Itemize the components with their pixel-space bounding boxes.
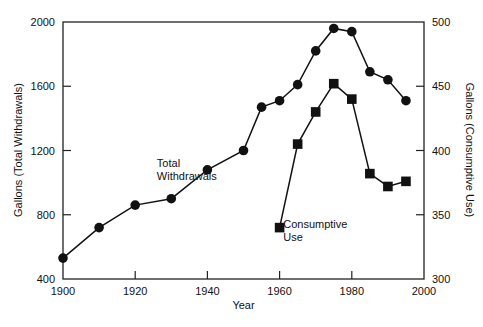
square-marker xyxy=(311,107,321,117)
circle-marker xyxy=(239,146,249,156)
y-axis-label-right: Gallons (Consumptive Use) xyxy=(464,83,476,218)
y-tick-label-left: 1600 xyxy=(31,80,55,92)
y-tick-label-right: 350 xyxy=(432,209,450,221)
data-series xyxy=(58,24,411,263)
y-tick-label-right: 500 xyxy=(432,16,450,28)
series-annotations: TotalWithdrawalsConsumptiveUse xyxy=(157,157,348,243)
x-tick-label: 1900 xyxy=(51,285,75,297)
x-tick-label: 1960 xyxy=(267,285,291,297)
circle-marker xyxy=(365,67,375,77)
circle-marker xyxy=(130,200,140,210)
y-axis-label-left: Gallons (Total Withdrawals) xyxy=(12,83,24,217)
annotation-label: Consumptive xyxy=(283,218,347,230)
circle-marker xyxy=(329,24,339,34)
x-axis-label: Year xyxy=(232,299,255,311)
square-marker xyxy=(365,169,375,179)
axis-labels: Year Gallons (Total Withdrawals) Gallons… xyxy=(12,83,476,311)
circle-marker xyxy=(293,80,303,90)
series-consumptive-use xyxy=(275,79,411,233)
x-tick-label: 1940 xyxy=(195,285,219,297)
circle-marker xyxy=(275,96,285,106)
series-total-withdrawals xyxy=(58,24,411,263)
annotation-label: Withdrawals xyxy=(157,170,217,182)
circle-marker xyxy=(167,194,177,204)
series-line xyxy=(280,84,406,228)
circle-marker xyxy=(401,96,411,106)
x-tick-label: 2000 xyxy=(412,285,436,297)
square-marker xyxy=(383,182,393,192)
square-marker xyxy=(347,94,357,104)
line-chart: 1900192019401960198020004008001200160020… xyxy=(0,0,483,327)
circle-marker xyxy=(311,46,321,56)
circle-marker xyxy=(58,253,68,263)
y-tick-label-left: 800 xyxy=(37,209,55,221)
axis-ticks: 1900192019401960198020004008001200160020… xyxy=(31,16,451,297)
y-tick-label-left: 2000 xyxy=(31,16,55,28)
x-tick-label: 1980 xyxy=(340,285,364,297)
y-tick-label-right: 400 xyxy=(432,145,450,157)
circle-marker xyxy=(383,75,393,85)
circle-marker xyxy=(94,223,104,233)
y-tick-label-left: 400 xyxy=(37,273,55,285)
square-marker xyxy=(401,177,411,187)
annotation-label: Use xyxy=(283,231,303,243)
x-tick-label: 1920 xyxy=(123,285,147,297)
y-tick-label-right: 300 xyxy=(432,273,450,285)
annotation-label: Total xyxy=(157,157,180,169)
circle-marker xyxy=(347,27,357,37)
circle-marker xyxy=(257,102,267,112)
y-tick-label-right: 450 xyxy=(432,80,450,92)
square-marker xyxy=(293,139,303,149)
square-marker xyxy=(329,79,339,89)
series-line xyxy=(63,28,406,258)
y-tick-label-left: 1200 xyxy=(31,145,55,157)
